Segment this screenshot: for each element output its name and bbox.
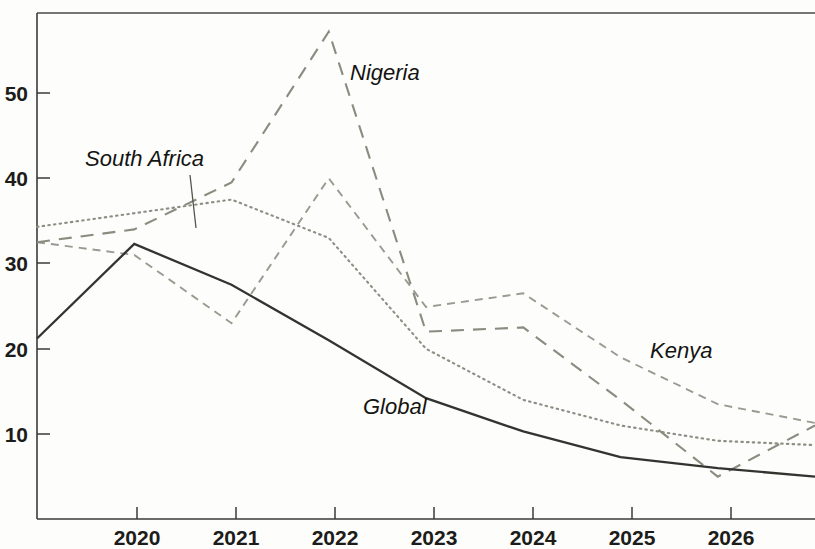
- axes: [37, 13, 815, 519]
- annotation-kenya: Kenya: [650, 338, 712, 363]
- x-tick-label-2025: 2025: [609, 526, 656, 549]
- y-tick-label-40: 40: [5, 167, 28, 190]
- x-tick-label-2023: 2023: [411, 526, 458, 549]
- annotation-global: Global: [363, 394, 428, 419]
- x-tick-label-2026: 2026: [708, 526, 755, 549]
- annotation-south-africa: South Africa: [85, 146, 204, 171]
- line-chart-figure: 50 40 30 20 10 2020 2021 2022 2023 2024 …: [0, 0, 815, 549]
- series-annotations: South Africa Nigeria Global Kenya: [85, 60, 712, 419]
- x-tick-label-2024: 2024: [510, 526, 557, 549]
- y-tick-label-30: 30: [5, 252, 28, 275]
- x-axis-ticks: 2020 2021 2022 2023 2024 2025 2026: [114, 507, 755, 549]
- x-tick-label-2022: 2022: [312, 526, 359, 549]
- series-line-kenya: [37, 178, 815, 423]
- y-tick-label-50: 50: [5, 82, 28, 105]
- x-tick-label-2020: 2020: [114, 526, 161, 549]
- y-tick-label-10: 10: [5, 423, 28, 446]
- y-axis-ticks: 50 40 30 20 10: [5, 82, 50, 446]
- chart-canvas: 50 40 30 20 10 2020 2021 2022 2023 2024 …: [0, 0, 815, 549]
- annotation-nigeria: Nigeria: [350, 60, 420, 85]
- y-tick-label-20: 20: [5, 338, 28, 361]
- x-tick-label-2021: 2021: [213, 526, 260, 549]
